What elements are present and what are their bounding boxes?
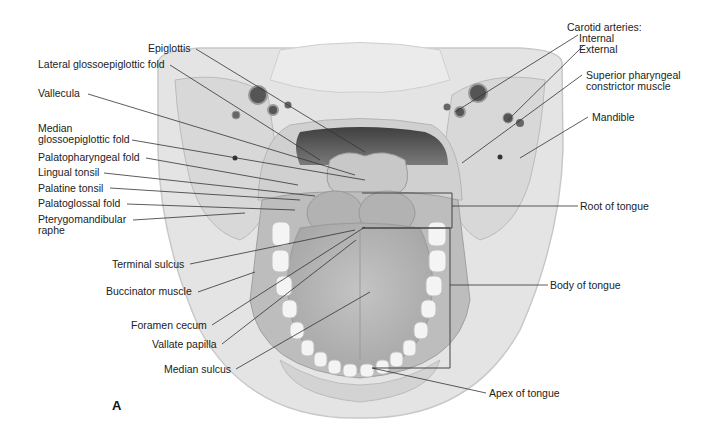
- label-palatoglossal-fold: Palatoglossal fold: [38, 198, 120, 209]
- epiglottis: [327, 153, 408, 192]
- label-median-sulcus: Median sulcus: [164, 364, 231, 375]
- left-internal-carotid: [249, 86, 267, 104]
- label-carotid-arteries: Carotid arteries: Internal External: [567, 22, 642, 55]
- label-superior-pharyngeal-constrictor: Superior pharyngeal constrictor muscle: [586, 70, 681, 92]
- label-epiglottis: Epiglottis: [148, 43, 191, 54]
- label-median-glossoepiglottic-fold: Median glossoepiglottic fold: [38, 123, 130, 145]
- label-vallate-papilla: Vallate papilla: [152, 339, 217, 350]
- label-lingual-tonsil: Lingual tonsil: [38, 167, 99, 178]
- label-palatine-tonsil: Palatine tonsil: [38, 183, 103, 194]
- label-lateral-glossoepiglottic-fold: Lateral glossoepiglottic fold: [38, 59, 165, 70]
- panel-label: A: [112, 398, 121, 413]
- label-buccinator-muscle: Buccinator muscle: [106, 286, 192, 297]
- label-vallecula: Vallecula: [38, 88, 80, 99]
- label-foramen-cecum: Foramen cecum: [131, 320, 207, 331]
- right-internal-carotid: [469, 84, 487, 102]
- left-small-vessel: [232, 111, 240, 119]
- label-external: External: [567, 44, 642, 55]
- vertebra: [270, 43, 450, 93]
- label-root-of-tongue: Root of tongue: [580, 201, 649, 212]
- label-palatopharyngeal-fold: Palatopharyngeal fold: [38, 152, 140, 163]
- label-apex-of-tongue: Apex of tongue: [489, 388, 560, 399]
- label-body-of-tongue: Body of tongue: [550, 280, 621, 291]
- label-line-2: glossoepiglottic fold: [38, 134, 130, 145]
- label-line-2: constrictor muscle: [586, 81, 681, 92]
- label-mandible: Mandible: [592, 112, 635, 123]
- label-line-2: raphe: [38, 225, 126, 236]
- label-terminal-sulcus: Terminal sulcus: [112, 259, 184, 270]
- left-external-carotid: [268, 105, 278, 115]
- label-pterygomandibular-raphe: Pterygomandibular raphe: [38, 214, 126, 236]
